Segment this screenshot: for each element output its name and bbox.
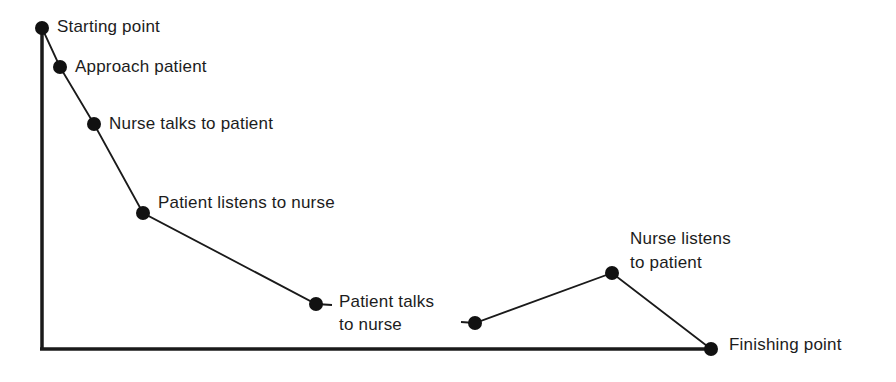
label-patient-listens: Patient listens to nurse: [158, 192, 335, 213]
label-approach-patient: Approach patient: [75, 56, 207, 77]
node-resume: [468, 316, 482, 330]
node-patient-listens: [136, 206, 150, 220]
label-starting-point: Starting point: [57, 16, 160, 37]
node-approach: [53, 60, 67, 74]
label-patient-talks-line1: Patient talks: [339, 291, 434, 312]
node-nurse-listens: [605, 266, 619, 280]
label-patient-talks-line2: to nurse: [339, 314, 402, 335]
label-nurse-listens-line1: Nurse listens: [630, 228, 731, 249]
node-nurse-talks: [87, 117, 101, 131]
node-start: [35, 21, 49, 35]
label-finishing-point: Finishing point: [729, 334, 842, 355]
node-patient-talks: [309, 297, 323, 311]
path-line-2: [461, 273, 711, 349]
label-nurse-talks: Nurse talks to patient: [109, 113, 273, 134]
node-finish: [704, 342, 718, 356]
label-nurse-listens-line2: to patient: [630, 252, 702, 273]
